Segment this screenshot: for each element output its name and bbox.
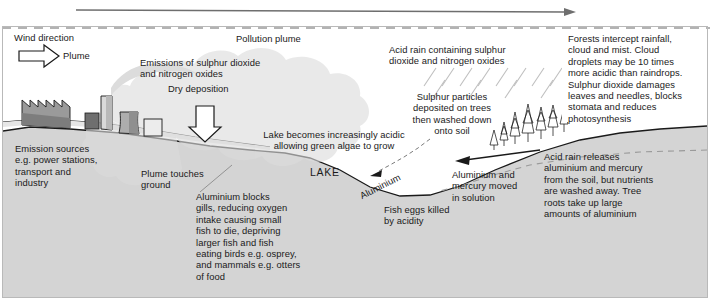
- acid-rain-diagram: Wind direction Plume Pollution plume Emi…: [0, 0, 712, 301]
- label-wind-direction: Wind direction: [14, 32, 74, 43]
- label-aluminium-blocks-gills: Aluminium blocks gills, reducing oxygen …: [196, 191, 300, 282]
- label-aluminium-mercury-moved: Aluminium and mercury moved in solution: [452, 169, 517, 203]
- label-emissions: Emissions of sulphur dioxide and nitroge…: [140, 57, 260, 80]
- label-emission-sources: Emission sources e.g. power stations, tr…: [15, 143, 97, 189]
- label-lake-becomes-acidic: Lake becomes increasingly acidic allowin…: [229, 129, 439, 152]
- top-flow-arrow-icon: [76, 8, 576, 16]
- label-dry-deposition: Dry deposition: [168, 83, 229, 94]
- factory-icon: [22, 100, 70, 128]
- factory-block-icon: [85, 113, 99, 129]
- chimney-icon: [101, 96, 112, 130]
- label-fish-eggs-killed: Fish eggs killed by acidity: [384, 204, 449, 227]
- wind-arrow-icon: [19, 45, 59, 67]
- label-lake: LAKE: [310, 167, 340, 178]
- label-plume-touches-ground: Plume touches ground: [141, 168, 204, 191]
- label-acid-rain-releases: Acid rain releases aluminium and mercury…: [544, 151, 653, 219]
- label-plume: Plume: [63, 50, 90, 61]
- label-acid-rain-containing: Acid rain containing sulphur dioxide and…: [389, 44, 506, 67]
- label-pollution-plume: Pollution plume: [236, 33, 301, 44]
- cooling-tower-icon: [119, 112, 139, 134]
- outbuilding-icon: [144, 119, 162, 136]
- label-forests-intercept: Forests intercept rainfall, cloud and mi…: [568, 33, 706, 124]
